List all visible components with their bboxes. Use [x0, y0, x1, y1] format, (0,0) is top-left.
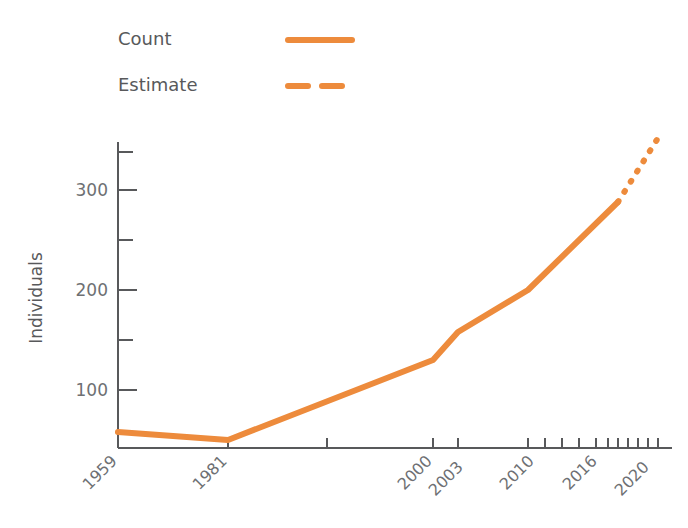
chart-legend: Count Estimate: [118, 28, 352, 95]
y-axis-minor-ticks: [118, 152, 133, 340]
line-chart: Count Estimate 100 200 300 Individua: [0, 0, 688, 528]
y-axis-major-ticks: [118, 190, 137, 390]
y-axis-tick-labels: 100 200 300: [76, 180, 108, 400]
series-line-estimate: [618, 138, 658, 202]
x-tick-label-1959: 1959: [79, 451, 121, 493]
legend-item-label-count: Count: [118, 28, 171, 49]
x-tick-label-2010: 2010: [496, 451, 538, 493]
x-tick-label-2016: 2016: [559, 451, 601, 493]
x-tick-label-1981: 1981: [189, 451, 231, 493]
x-tick-label-2020: 2020: [611, 457, 653, 499]
series-line-count: [118, 202, 618, 440]
x-axis-tick-labels: 1959 1981 2000 2003 2010 2016 2020: [79, 451, 653, 499]
y-tick-label-100: 100: [76, 380, 108, 400]
legend-item-label-estimate: Estimate: [118, 74, 198, 95]
y-axis-title: Individuals: [26, 252, 46, 344]
chart-canvas: Count Estimate 100 200 300 Individua: [0, 0, 688, 528]
y-tick-label-300: 300: [76, 180, 108, 200]
y-tick-label-200: 200: [76, 280, 108, 300]
